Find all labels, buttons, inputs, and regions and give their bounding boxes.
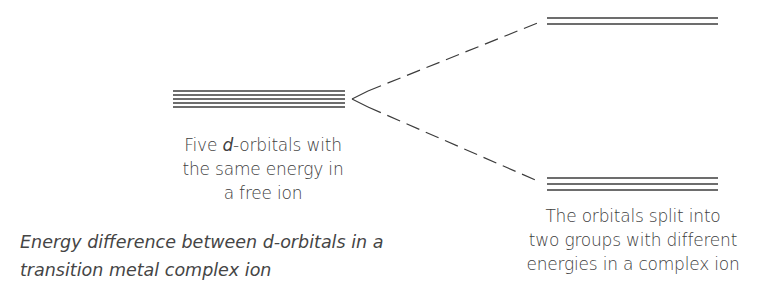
complex-ion-label-line3: energies in a complex ion (500, 252, 766, 276)
d-symbol: d (222, 135, 233, 155)
caption-line2: transition metal complex ion (20, 256, 420, 284)
free-ion-label-line2: the same energy in (168, 157, 358, 181)
caption-line1: Energy difference between d-orbitals in … (20, 228, 420, 256)
free-ion-orbitals (173, 91, 345, 107)
apex-upper-solid (352, 91, 368, 99)
complex-ion-label: The orbitals split into two groups with … (500, 204, 766, 276)
dashed-line-to-upper (368, 22, 540, 91)
figure-caption: Energy difference between d-orbitals in … (20, 228, 420, 284)
lower-orbital-group (547, 178, 718, 190)
complex-ion-label-line2: two groups with different (500, 228, 766, 252)
splitting-connectors (352, 22, 540, 182)
free-ion-label-line3: a free ion (168, 181, 358, 205)
dashed-line-to-lower (368, 107, 540, 182)
free-ion-label: Five d-orbitals with the same energy in … (168, 133, 358, 205)
apex-lower-solid (352, 99, 368, 107)
upper-orbital-group (547, 18, 718, 24)
complex-ion-label-line1: The orbitals split into (500, 204, 766, 228)
free-ion-label-line1: Five d-orbitals with (168, 133, 358, 157)
